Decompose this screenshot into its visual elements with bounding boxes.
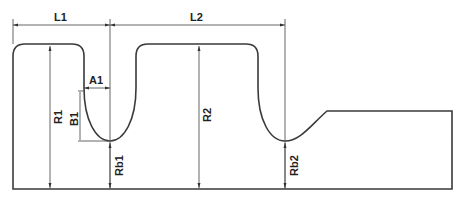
label-b1: B1 bbox=[68, 112, 80, 126]
profile-drawing: L1 L2 A1 B1 R1 Rb1 R2 Rb2 bbox=[0, 0, 462, 203]
label-r2: R2 bbox=[201, 108, 213, 122]
label-a1: A1 bbox=[89, 74, 103, 86]
label-rb1: Rb1 bbox=[113, 155, 125, 176]
label-l2: L2 bbox=[190, 11, 203, 23]
label-r1: R1 bbox=[52, 110, 64, 124]
label-l1: L1 bbox=[54, 11, 67, 23]
label-rb2: Rb2 bbox=[288, 155, 300, 176]
